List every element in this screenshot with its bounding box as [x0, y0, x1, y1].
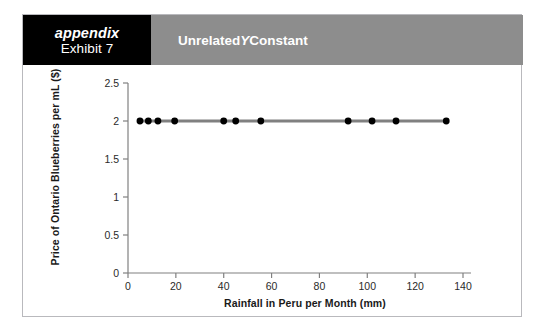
- data-point: [369, 118, 376, 125]
- x-tick-label: 80: [314, 280, 326, 292]
- data-point: [155, 118, 162, 125]
- exhibit-header: appendix Exhibit 7 Unrelated Y Constant: [23, 15, 523, 65]
- exhibit-title-prefix: Unrelated: [178, 33, 240, 48]
- x-tick-label: 60: [266, 280, 278, 292]
- exhibit-card: appendix Exhibit 7 Unrelated Y Constant …: [22, 14, 522, 317]
- x-axis-label: Rainfall in Peru per Month (mm): [224, 297, 386, 309]
- data-point: [393, 118, 400, 125]
- screenshot-root: appendix Exhibit 7 Unrelated Y Constant …: [0, 0, 549, 335]
- x-tick-label: 120: [406, 280, 424, 292]
- y-tick-label: 2: [113, 115, 119, 127]
- scatter-line-plot: 00.511.522.5020406080100120140: [23, 65, 523, 317]
- data-point: [257, 118, 264, 125]
- data-point: [145, 118, 152, 125]
- data-point: [137, 118, 144, 125]
- x-tick-label: 140: [454, 280, 472, 292]
- x-tick-label: 0: [125, 280, 131, 292]
- y-tick-label: 1: [113, 191, 119, 203]
- data-point: [345, 118, 352, 125]
- exhibit-title-variable: Y: [240, 33, 249, 48]
- exhibit-number-label: Exhibit 7: [61, 41, 114, 56]
- x-tick-label: 40: [218, 280, 230, 292]
- chart-container: Price of Ontario Blueberries per mL ($) …: [23, 65, 523, 317]
- data-point: [232, 118, 239, 125]
- data-point: [171, 118, 178, 125]
- data-point: [220, 118, 227, 125]
- data-point: [443, 118, 450, 125]
- y-tick-label: 1.5: [104, 153, 119, 165]
- x-axis-label-wrap: Rainfall in Peru per Month (mm): [23, 297, 523, 309]
- y-tick-label: 0.5: [104, 229, 119, 241]
- appendix-label: appendix: [55, 25, 119, 41]
- appendix-badge: appendix Exhibit 7: [23, 15, 151, 65]
- x-tick-label: 100: [359, 280, 377, 292]
- exhibit-title-banner: Unrelated Y Constant: [151, 15, 523, 65]
- y-tick-label: 0: [113, 267, 119, 279]
- y-tick-label: 2.5: [104, 77, 119, 89]
- exhibit-title-suffix: Constant: [249, 33, 308, 48]
- x-tick-label: 20: [170, 280, 182, 292]
